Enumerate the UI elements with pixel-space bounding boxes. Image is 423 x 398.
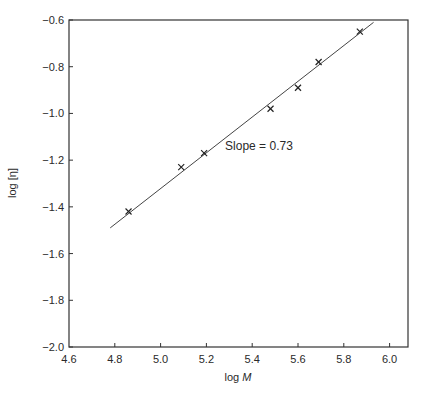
fit-line-group <box>110 22 373 228</box>
x-tick-label: 6.0 <box>382 353 397 365</box>
y-tick-label: −1.6 <box>42 248 64 260</box>
x-tick-label: 4.6 <box>61 353 76 365</box>
y-tick-label: −0.8 <box>42 61 64 73</box>
data-point <box>178 164 184 170</box>
x-tick-label: 5.6 <box>290 353 305 365</box>
y-tick-label: −1.8 <box>42 294 64 306</box>
y-axis: −0.6−0.8−1.0−1.2−1.4−1.6−1.8−2.0 <box>42 14 73 353</box>
x-tick-label: 5.4 <box>245 353 260 365</box>
y-tick-label: −1.0 <box>42 107 64 119</box>
y-tick-label: −0.6 <box>42 14 64 26</box>
x-tick-label: 5.8 <box>336 353 351 365</box>
plot-frame <box>69 20 408 347</box>
y-tick-label: −1.4 <box>42 201 64 213</box>
y-tick-label: −2.0 <box>42 341 64 353</box>
y-tick-label: −1.2 <box>42 154 64 166</box>
fit-line <box>110 22 373 228</box>
data-point <box>295 85 301 91</box>
x-tick-label: 5.0 <box>153 353 168 365</box>
data-points <box>126 29 363 215</box>
y-axis-label: log [η] <box>6 168 18 198</box>
data-point <box>316 59 322 65</box>
x-axis-label: log M <box>225 371 253 383</box>
data-point <box>268 106 274 112</box>
x-tick-label: 5.2 <box>199 353 214 365</box>
slope-annotation: Slope = 0.73 <box>225 139 293 153</box>
x-axis: 4.64.85.05.25.45.65.86.0 <box>61 343 397 365</box>
chart: 4.64.85.05.25.45.65.86.0 −0.6−0.8−1.0−1.… <box>0 0 423 398</box>
x-tick-label: 4.8 <box>107 353 122 365</box>
